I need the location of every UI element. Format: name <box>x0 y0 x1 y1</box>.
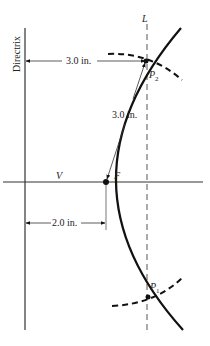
point-p2 <box>144 59 149 64</box>
vertex-label: V <box>56 170 64 181</box>
dim-label-directrix-f: 2.0 in. <box>52 217 77 228</box>
point-p1 <box>146 295 151 300</box>
directrix-label: Directrix <box>11 36 22 72</box>
focus-point <box>103 179 109 185</box>
parabola-diagram: 3.0 in. 3.0 in. 2.0 in. Directrix L V F … <box>0 0 210 346</box>
dim-label-directrix-p2: 3.0 in. <box>66 55 91 66</box>
line-l-label: L <box>141 13 148 24</box>
arc-p2 <box>108 54 182 80</box>
focus-label: F <box>113 170 121 181</box>
dim-label-p2-f: 3.0 in. <box>112 109 137 120</box>
p2-label: P2 <box>148 69 159 83</box>
